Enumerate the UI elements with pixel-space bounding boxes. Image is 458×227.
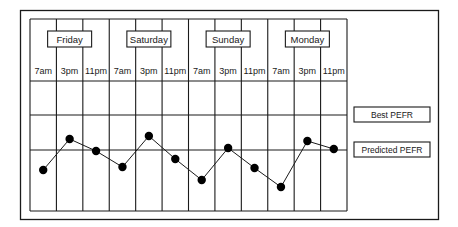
data-point [118, 163, 126, 171]
time-label: 11pm [164, 66, 186, 76]
data-point [277, 183, 285, 191]
day-header-sunday: Sunday [206, 31, 250, 47]
data-point [145, 132, 153, 140]
time-label: 3pm [219, 66, 237, 76]
data-point [250, 164, 258, 172]
legend-best-pefr: Best PEFR [354, 107, 430, 122]
data-point [330, 145, 338, 153]
data-point [303, 137, 311, 145]
time-label: 3pm [299, 66, 317, 76]
data-point [39, 166, 47, 174]
time-label: 11pm [85, 66, 107, 76]
svg-text:Best PEFR: Best PEFR [371, 110, 413, 120]
pefr-chart: FridaySaturdaySundayMonday 7am3pm11pm7am… [0, 0, 458, 227]
time-label: 3pm [140, 66, 158, 76]
day-header-friday: Friday [48, 31, 92, 47]
day-header-monday: Monday [285, 31, 329, 47]
day-label: Friday [56, 34, 83, 45]
time-label: 7am [34, 66, 52, 76]
time-label: 7am [114, 66, 132, 76]
data-point [198, 176, 206, 184]
data-point [224, 144, 232, 152]
data-point [65, 135, 73, 143]
data-point [92, 147, 100, 155]
legend-predicted-pefr: Predicted PEFR [354, 142, 430, 157]
day-label: Saturday [130, 34, 168, 45]
data-point [171, 155, 179, 163]
time-label: 3pm [61, 66, 79, 76]
svg-text:Predicted PEFR: Predicted PEFR [362, 145, 423, 155]
day-header-saturday: Saturday [127, 31, 171, 47]
day-label: Sunday [212, 34, 244, 45]
day-label: Monday [290, 34, 324, 45]
time-label: 11pm [323, 66, 345, 76]
time-label: 7am [193, 66, 211, 76]
time-label: 11pm [244, 66, 266, 76]
time-label: 7am [272, 66, 290, 76]
